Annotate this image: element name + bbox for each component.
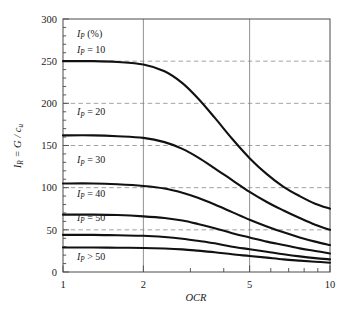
chart-container: 050100150200250300 12510 OCR IR = G / cu… — [0, 0, 349, 315]
ytick-label-200: 200 — [41, 98, 57, 109]
xtick-label-1: 1 — [60, 279, 65, 290]
x-axis-title: OCR — [186, 292, 208, 303]
ytick-label-50: 50 — [47, 225, 58, 236]
ytick-label-0: 0 — [52, 267, 57, 278]
rigidity-index-vs-ocr-chart: 050100150200250300 12510 OCR IR = G / cu… — [0, 0, 349, 315]
ytick-label-150: 150 — [41, 140, 57, 151]
xtick-label-10: 10 — [325, 279, 336, 290]
xtick-label-5: 5 — [247, 279, 252, 290]
xtick-label-2: 2 — [141, 279, 146, 290]
ytick-label-300: 300 — [41, 14, 57, 25]
ytick-label-100: 100 — [41, 182, 57, 193]
ytick-label-250: 250 — [41, 56, 57, 67]
